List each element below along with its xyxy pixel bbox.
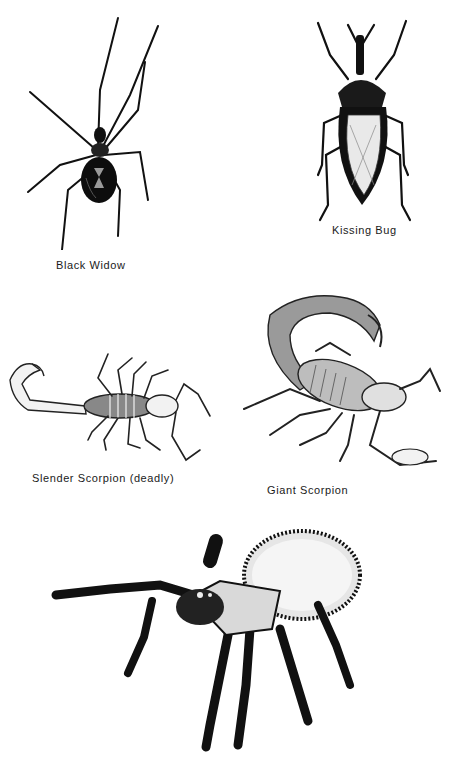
- tarantula-icon: [50, 525, 420, 760]
- giant-scorpion-icon: [230, 285, 445, 480]
- slender-scorpion-caption: Slender Scorpion (deadly): [32, 472, 174, 484]
- kissing-bug-caption: Kissing Bug: [332, 224, 397, 236]
- kissing-bug-illustration: [310, 15, 420, 225]
- kissing-bug-icon: [310, 15, 420, 225]
- giant-scorpion-illustration: [230, 285, 445, 480]
- slender-scorpion-illustration: [0, 340, 220, 470]
- black-widow-caption: Black Widow: [56, 259, 126, 271]
- slender-scorpion-icon: [0, 340, 220, 470]
- black-widow-icon: [20, 0, 170, 250]
- tarantula-illustration: [50, 525, 420, 760]
- black-widow-illustration: [20, 0, 170, 250]
- giant-scorpion-caption: Giant Scorpion: [267, 484, 348, 496]
